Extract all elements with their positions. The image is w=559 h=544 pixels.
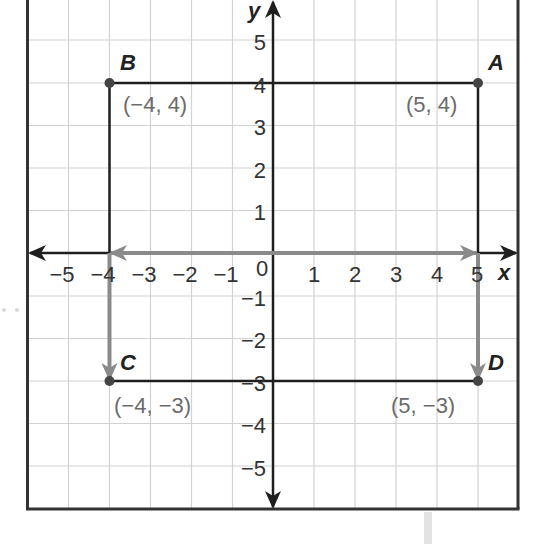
point-label-d: D: [488, 350, 504, 375]
x-tick-m4: −4: [90, 262, 115, 287]
points: [105, 78, 484, 386]
x-tick-m3: −3: [131, 262, 156, 287]
point-label-a: A: [487, 50, 504, 75]
page-fold-shadow: [424, 512, 432, 544]
point-c: [105, 376, 115, 386]
y-tick-m4: −4: [241, 413, 266, 438]
x-tick-p5: 5: [471, 262, 483, 287]
y-axis-label: y: [247, 0, 262, 23]
x-axis-label: x: [497, 260, 511, 285]
y-tick-p3: 3: [254, 115, 266, 140]
y-tick-m3: −3: [241, 371, 266, 396]
coord-label-d: (5, −3): [391, 393, 455, 418]
y-tick-p5: 5: [254, 30, 266, 55]
stray-dots: [2, 308, 19, 312]
coordinate-plane: y x −5 −4 −3 −2 −1 0 1 2 3 4 5 5 4 3 2 1…: [0, 0, 559, 544]
y-tick-m5: −5: [241, 456, 266, 481]
y-tick-p1: 1: [254, 200, 266, 225]
point-label-c: C: [120, 350, 137, 375]
y-tick-p4: 4: [254, 73, 266, 98]
gray-arrows: [110, 253, 479, 379]
point-b: [105, 78, 115, 88]
y-tick-m1: −1: [241, 286, 266, 311]
coord-label-b: (−4, 4): [123, 92, 187, 117]
x-tick-m2: −2: [172, 262, 197, 287]
x-tick-labels: −5 −4 −3 −2 −1 0 1 2 3 4 5: [49, 256, 483, 287]
x-tick-m1: −1: [213, 262, 238, 287]
rectangle-abcd: [110, 83, 479, 381]
x-tick-p3: 3: [390, 262, 402, 287]
y-tick-p2: 2: [254, 158, 266, 183]
point-label-b: B: [120, 50, 136, 75]
point-a: [473, 78, 483, 88]
y-tick-m2: −2: [241, 328, 266, 353]
x-tick-p2: 2: [349, 262, 361, 287]
point-d: [473, 376, 483, 386]
x-tick-p1: 1: [308, 262, 320, 287]
coord-label-a: (5, 4): [406, 92, 457, 117]
coord-label-c: (−4, −3): [114, 393, 191, 418]
x-tick-p4: 4: [431, 262, 443, 287]
x-tick-zero: 0: [256, 256, 268, 281]
x-tick-m5: −5: [49, 262, 74, 287]
